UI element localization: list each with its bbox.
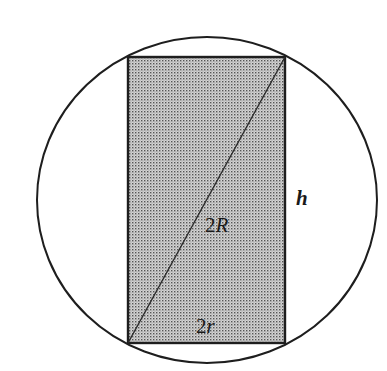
label-base-number: 2: [196, 314, 207, 338]
label-diagonal-variable: R: [215, 213, 229, 237]
label-base-variable: r: [207, 314, 216, 338]
label-height-h: h: [296, 186, 308, 210]
label-diagonal-2R: 2R: [205, 213, 229, 237]
label-diagonal-number: 2: [205, 213, 216, 237]
cylinder-in-sphere-diagram: 2R h 2r: [0, 0, 387, 371]
label-base-2r: 2r: [196, 314, 216, 338]
